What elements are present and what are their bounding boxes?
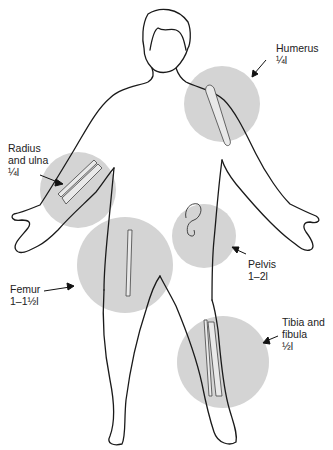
label-radius-ulna: Radius and ulna ¼l [8,142,48,178]
femur-zone [77,217,173,313]
label-tibia-fibula: Tibia and fibula ½l [282,316,325,352]
label-femur: Femur 1–1½l [10,283,40,307]
label-pelvis: Pelvis 1–2l [248,258,276,282]
pelvis-zone [172,204,236,268]
body-figure [0,0,333,450]
tibia-fibula-zone [177,316,269,408]
label-humerus: Humerus ¼l [276,42,319,66]
body-outline [12,9,319,444]
blood-loss-diagram: Humerus ¼l Radius and ulna ¼l Femur 1–1½… [0,0,333,450]
